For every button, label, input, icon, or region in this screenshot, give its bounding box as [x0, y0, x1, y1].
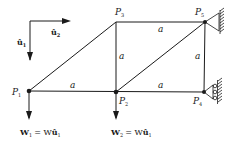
svg-text:W1= Wû1: W1= Wû1: [19, 127, 61, 138]
load-w2: W2= Wû1: [110, 92, 152, 138]
label-p2: P2: [118, 96, 128, 107]
pin-support-icon: [205, 8, 224, 34]
roller-support-icon: [204, 78, 222, 104]
label-p4: P4: [192, 96, 202, 107]
svg-text:a: a: [158, 80, 163, 90]
label-p3: P3: [114, 7, 124, 18]
truss-diagram: û1 û2 a a a a a P1 P2 P3 P4 P5: [0, 0, 238, 145]
arrow-down-icon: [26, 111, 32, 120]
arrow-right-icon: [62, 18, 71, 24]
u2-label: û2: [51, 27, 61, 38]
label-p1: P1: [11, 87, 21, 98]
u1-label: û1: [17, 37, 26, 48]
arrow-down-icon: [27, 52, 33, 61]
svg-text:W2= Wû1: W2= Wû1: [110, 127, 152, 138]
unit-vector-axes: û1 û2: [17, 18, 71, 61]
length-labels: a a a a a: [70, 24, 200, 90]
svg-text:a: a: [70, 80, 75, 90]
svg-text:a: a: [119, 51, 124, 61]
load-w1: W1= Wû1: [19, 91, 61, 138]
svg-text:a: a: [195, 51, 200, 61]
arrow-down-icon: [113, 111, 119, 120]
member-p4-p5: [204, 22, 205, 92]
svg-text:a: a: [158, 24, 163, 34]
label-p5: P5: [194, 7, 204, 18]
